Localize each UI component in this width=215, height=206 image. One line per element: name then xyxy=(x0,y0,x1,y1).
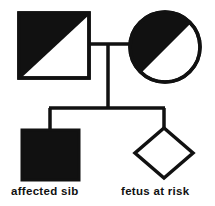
label-fetus-at-risk: fetus at risk xyxy=(121,185,189,198)
person-mother-carrier-female[interactable] xyxy=(130,12,200,82)
pedigree-diagram: affected sib fetus at risk xyxy=(0,0,215,206)
fetus-diamond-outline xyxy=(135,128,193,178)
person-affected-sib-male[interactable] xyxy=(22,130,79,180)
person-fetus-at-risk-unknown[interactable] xyxy=(135,128,193,178)
pedigree-canvas xyxy=(0,0,215,206)
label-affected-sib: affected sib xyxy=(11,185,79,198)
sib-square-filled xyxy=(22,130,79,180)
person-father-carrier-male[interactable] xyxy=(19,13,89,78)
